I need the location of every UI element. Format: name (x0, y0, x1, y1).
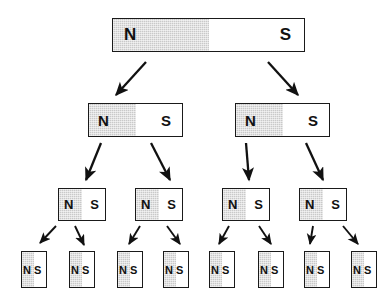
split-arrow-1-to-2-1 (116, 62, 146, 95)
south-pole-label: S (271, 252, 283, 287)
north-pole-label: N (89, 104, 136, 136)
north-pole-label: N (259, 252, 271, 287)
split-arrow-2-to-3-5 (246, 143, 249, 180)
split-arrow-3-to-4-11 (219, 226, 229, 244)
south-pole-label: S (136, 104, 183, 136)
magnet-level-3-piece-4: NS (299, 188, 347, 221)
south-pole-label: S (159, 189, 182, 220)
magnet-level-4-piece-8: NS (351, 251, 377, 288)
split-arrow-2-to-3-6 (306, 143, 323, 180)
south-pole-label: S (222, 252, 234, 287)
split-arrow-3-to-4-7 (40, 226, 56, 243)
south-pole-label: S (82, 252, 94, 287)
north-pole-label: N (352, 252, 364, 287)
magnet-level-4-piece-7: NS (304, 251, 330, 288)
magnet-level-3-piece-2: NS (135, 188, 183, 221)
split-arrow-3-to-4-8 (75, 226, 84, 245)
magnet-level-4-piece-5: NS (209, 251, 235, 288)
magnet-level-2-piece-1: NS (88, 103, 183, 137)
magnet-level-4-piece-1: NS (21, 251, 47, 288)
magnet-level-2-piece-2: NS (235, 103, 330, 137)
north-pole-label: N (113, 19, 209, 51)
split-arrow-3-to-4-12 (259, 226, 271, 244)
south-pole-label: S (283, 104, 330, 136)
north-pole-label: N (236, 104, 283, 136)
magnet-level-4-piece-3: NS (117, 251, 143, 288)
south-pole-label: S (34, 252, 46, 287)
south-pole-label: S (130, 252, 142, 287)
north-pole-label: N (305, 252, 317, 287)
south-pole-label: S (82, 189, 105, 220)
south-pole-label: S (176, 252, 188, 287)
north-pole-label: N (300, 189, 323, 220)
split-arrow-3-to-4-14 (343, 226, 358, 244)
magnet-level-1-piece-1: NS (112, 18, 305, 52)
magnet-level-3-piece-3: NS (222, 188, 270, 221)
magnet-subdivision-diagram: NSNSNSNSNSNSNSNSNSNSNSNSNSNSNS (0, 0, 390, 294)
split-arrow-3-to-4-10 (167, 226, 180, 244)
north-pole-label: N (70, 252, 82, 287)
north-pole-label: N (22, 252, 34, 287)
north-pole-label: N (210, 252, 222, 287)
magnet-level-4-piece-4: NS (163, 251, 189, 288)
magnet-level-3-piece-1: NS (58, 188, 106, 221)
split-arrow-2-to-3-4 (151, 143, 170, 180)
north-pole-label: N (118, 252, 130, 287)
south-pole-label: S (364, 252, 376, 287)
south-pole-label: S (246, 189, 269, 220)
split-arrow-3-to-4-9 (129, 226, 140, 244)
south-pole-label: S (209, 19, 305, 51)
split-arrow-2-to-3-3 (86, 143, 101, 180)
north-pole-label: N (136, 189, 159, 220)
magnet-level-4-piece-6: NS (258, 251, 284, 288)
south-pole-label: S (323, 189, 346, 220)
split-arrow-1-to-2-2 (268, 62, 298, 95)
split-arrow-3-to-4-13 (310, 226, 313, 244)
north-pole-label: N (164, 252, 176, 287)
north-pole-label: N (59, 189, 82, 220)
north-pole-label: N (223, 189, 246, 220)
south-pole-label: S (317, 252, 329, 287)
magnet-level-4-piece-2: NS (69, 251, 95, 288)
